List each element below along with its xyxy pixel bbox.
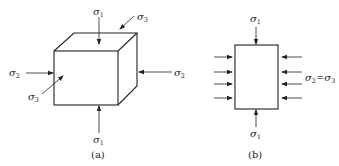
cube-right-face <box>118 33 137 105</box>
sigma1-top-label-b: σ1 <box>250 13 261 26</box>
sigma3-front-label-a: σ3 <box>28 91 39 104</box>
sigma3-top-label-a: σ3 <box>137 11 148 24</box>
figure-a: σ1 σ3 σ2 σ2 σ3 σ1 (a) <box>9 6 185 160</box>
lateral-stress-label-b: σ2=σ3 <box>305 72 335 85</box>
cube <box>54 33 137 105</box>
sigma3-front-arrow-a <box>42 76 63 94</box>
sigma2-right-label-a: σ2 <box>174 67 185 80</box>
caption-b: (b) <box>248 149 262 160</box>
caption-a: (a) <box>91 149 105 160</box>
specimen-rectangle <box>235 45 278 109</box>
figure-b: σ1 σ1 σ2=σ3 (b) <box>214 13 335 160</box>
sigma1-top-label-a: σ1 <box>93 6 104 19</box>
sigma1-bottom-label-a: σ1 <box>93 134 104 147</box>
sigma2-left-label-a: σ2 <box>9 67 20 80</box>
sigma3-top-arrow-a <box>120 16 134 29</box>
cube-front-face <box>54 51 118 105</box>
stress-diagram: σ1 σ3 σ2 σ2 σ3 σ1 (a) σ1 σ1 σ2=σ3 (b) <box>0 0 339 166</box>
sigma1-bottom-label-b: σ1 <box>250 128 261 141</box>
cube-top-face <box>54 33 137 51</box>
